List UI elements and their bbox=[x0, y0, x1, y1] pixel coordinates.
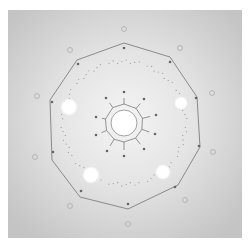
ring-mark bbox=[76, 83, 77, 84]
central-bright-spot bbox=[111, 110, 137, 136]
ring-mark bbox=[62, 131, 63, 132]
inner-dot bbox=[105, 97, 108, 100]
inner-dot bbox=[123, 155, 126, 158]
ring-mark bbox=[183, 139, 184, 140]
ring-mark bbox=[153, 174, 154, 175]
ring-mark bbox=[66, 143, 67, 144]
ring-mark bbox=[96, 67, 97, 68]
outer-dot bbox=[127, 203, 130, 206]
ring-mark bbox=[121, 185, 122, 186]
ring-mark bbox=[69, 94, 70, 95]
ring-mark bbox=[146, 65, 147, 66]
inner-dot bbox=[155, 114, 158, 117]
outer-dot bbox=[195, 97, 198, 100]
outer-dot bbox=[52, 151, 55, 154]
ring-mark bbox=[121, 61, 122, 62]
diffraction-pattern-figure bbox=[0, 0, 249, 248]
ring-mark bbox=[177, 156, 178, 157]
ring-mark bbox=[68, 152, 69, 153]
ring-mark bbox=[134, 62, 135, 63]
ring-mark bbox=[182, 135, 183, 136]
ring-mark bbox=[126, 184, 127, 185]
ring-mark bbox=[176, 90, 177, 91]
ring-mark bbox=[151, 66, 152, 67]
ring-mark bbox=[178, 151, 179, 152]
inner-dot bbox=[143, 148, 146, 151]
outer-dot bbox=[169, 61, 172, 64]
outer-dot bbox=[174, 186, 177, 189]
inner-dot bbox=[106, 150, 109, 153]
ring-mark bbox=[61, 114, 62, 115]
outer-dot bbox=[51, 101, 54, 104]
outer-dot bbox=[77, 63, 80, 66]
ring-mark bbox=[78, 79, 79, 80]
ring-mark bbox=[182, 110, 183, 111]
ring-mark bbox=[172, 82, 173, 83]
ring-mark bbox=[183, 144, 184, 145]
ring-mark bbox=[61, 127, 62, 128]
ring-mark bbox=[130, 63, 131, 64]
ring-mark bbox=[63, 140, 64, 141]
bright-spot bbox=[174, 96, 188, 110]
ring-mark bbox=[83, 167, 84, 168]
ring-mark bbox=[134, 184, 135, 185]
ring-mark bbox=[71, 155, 72, 156]
ring-mark bbox=[65, 135, 66, 136]
ring-mark bbox=[171, 162, 172, 163]
ring-mark bbox=[86, 74, 87, 75]
ring-mark bbox=[158, 71, 159, 72]
outer-dot bbox=[123, 47, 126, 50]
ring-mark bbox=[112, 60, 113, 61]
ring-mark bbox=[117, 63, 118, 64]
ring-mark bbox=[139, 61, 140, 62]
outer-dot bbox=[80, 190, 83, 193]
bright-spot bbox=[155, 164, 171, 180]
ring-mark bbox=[168, 80, 169, 81]
ring-mark bbox=[138, 182, 139, 183]
ring-mark bbox=[79, 165, 80, 166]
inner-dot bbox=[95, 116, 98, 119]
ring-mark bbox=[113, 183, 114, 184]
ring-mark bbox=[83, 78, 84, 79]
ring-mark bbox=[109, 63, 110, 64]
ring-mark bbox=[70, 89, 71, 90]
ring-mark bbox=[150, 178, 151, 179]
bright-spot bbox=[60, 98, 78, 116]
ring-mark bbox=[88, 70, 89, 71]
ring-mark bbox=[93, 70, 94, 71]
ring-mark bbox=[164, 78, 165, 79]
ring-mark bbox=[100, 179, 101, 180]
inner-dot bbox=[95, 134, 98, 137]
ring-mark bbox=[126, 59, 127, 60]
ring-mark bbox=[69, 147, 70, 148]
ring-mark bbox=[162, 73, 163, 74]
ring-mark bbox=[147, 181, 148, 182]
outer-dot bbox=[198, 145, 201, 148]
bright-spot bbox=[82, 166, 100, 184]
ring-mark bbox=[130, 182, 131, 183]
ring-mark bbox=[186, 131, 187, 132]
ring-mark bbox=[75, 163, 76, 164]
ring-mark bbox=[178, 147, 179, 148]
ring-mark bbox=[62, 118, 63, 119]
ring-mark bbox=[184, 114, 185, 115]
ring-mark bbox=[179, 93, 180, 94]
inner-dot bbox=[154, 133, 157, 136]
ring-mark bbox=[117, 182, 118, 183]
inner-dot bbox=[123, 91, 126, 94]
ring-mark bbox=[185, 127, 186, 128]
inner-dot bbox=[143, 98, 146, 101]
ring-mark bbox=[153, 70, 154, 71]
ring-mark bbox=[100, 64, 101, 65]
ring-mark bbox=[186, 118, 187, 119]
ring-mark bbox=[108, 184, 109, 185]
